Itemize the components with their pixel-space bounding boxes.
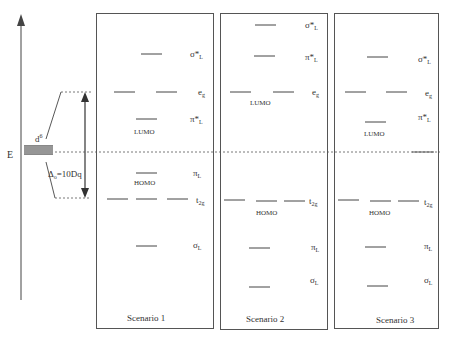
t2g-splitting-line bbox=[46, 162, 55, 198]
label-pi-star-L: π*L bbox=[190, 114, 203, 125]
d-orbital-block bbox=[24, 145, 53, 155]
label-pi-L: πL bbox=[424, 241, 433, 252]
d6-block: d6 bbox=[24, 133, 53, 155]
d6-label: d6 bbox=[35, 133, 43, 144]
label-pi-L: πL bbox=[193, 168, 202, 179]
label-eg: eg bbox=[198, 87, 205, 98]
label-sigma-star-L: σ*L bbox=[418, 54, 431, 65]
lumo-label: LUMO bbox=[134, 128, 155, 136]
energy-arrow-icon bbox=[17, 14, 25, 26]
scenario-2-title: Scenario 2 bbox=[246, 314, 284, 324]
homo-label: HOMO bbox=[369, 209, 390, 217]
homo-label: HOMO bbox=[256, 209, 277, 217]
label-pi-L: πL bbox=[311, 242, 320, 253]
label-t2g: t2g bbox=[424, 197, 433, 208]
delta-double-arrow bbox=[81, 92, 89, 198]
label-sigma-L: σL bbox=[424, 275, 433, 286]
eg-splitting-line bbox=[46, 92, 61, 139]
label-sigma-L: σL bbox=[310, 275, 319, 286]
scenario-3-title: Scenario 3 bbox=[376, 315, 415, 325]
label-t2g: t2g bbox=[309, 196, 318, 207]
homo-label: HOMO bbox=[134, 179, 155, 187]
label-sigma-star-L: σ*L bbox=[190, 49, 203, 60]
label-eg: eg bbox=[312, 87, 319, 98]
delta-label: Δo=10Dq bbox=[48, 169, 82, 180]
scenario-1-title: Scenario 1 bbox=[127, 313, 165, 323]
label-sigma-star-L: σ*L bbox=[305, 20, 318, 31]
arrow-up-icon bbox=[81, 92, 89, 102]
scenario-1-panel: σ*L eg π*L LUMO πL HOMO t2g σL Scenario … bbox=[97, 14, 214, 329]
label-pi-star-L: π*L bbox=[418, 112, 431, 123]
label-pi-star-L: π*L bbox=[305, 52, 318, 63]
scenario-2-panel: σ*L π*L eg LUMO t2g HOMO πL σL Scenario … bbox=[221, 14, 328, 330]
lumo-label: LUMO bbox=[250, 99, 271, 107]
energy-label: E bbox=[7, 149, 13, 160]
energy-axis: E bbox=[7, 14, 25, 300]
label-t2g: t2g bbox=[196, 195, 205, 206]
label-sigma-L: σL bbox=[193, 240, 202, 251]
label-eg: eg bbox=[425, 88, 432, 99]
lumo-label: LUMO bbox=[364, 130, 385, 138]
arrow-down-icon bbox=[81, 188, 89, 198]
mo-diagram: E d6 Δo=10Dq σ*L eg π*L LU bbox=[0, 0, 450, 342]
scenario-3-panel: σ*L eg π*L LUMO t2g HOMO πL σL Scenario … bbox=[335, 14, 439, 329]
